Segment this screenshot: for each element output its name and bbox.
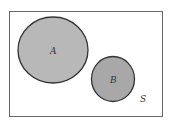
set-a-label: A <box>49 46 57 56</box>
set-b-label: B <box>109 75 117 85</box>
universe-label: S <box>140 94 146 104</box>
venn-diagram: A B S <box>0 0 170 126</box>
